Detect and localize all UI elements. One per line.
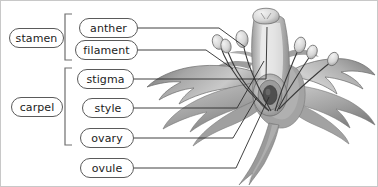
group-label-stamen: stamen [16, 33, 58, 44]
part-label-anther: anther [90, 23, 127, 34]
part-label-ovary: ovary [91, 133, 123, 144]
group-pill-carpel[interactable]: carpel [11, 97, 63, 117]
ovule-body [263, 86, 277, 105]
group-label-carpel: carpel [20, 102, 55, 113]
bracket-carpel [65, 68, 72, 145]
bracket-stamen [65, 14, 72, 60]
part-label-style: style [95, 103, 122, 114]
part-label-filament: filament [83, 45, 129, 56]
part-label-ovule: ovule [92, 163, 123, 174]
part-pill-ovule[interactable]: ovule [80, 158, 134, 178]
part-pill-stigma[interactable]: stigma [77, 69, 134, 89]
part-pill-anther[interactable]: anther [79, 18, 138, 38]
group-brackets [65, 14, 72, 145]
flower-illustration [147, 8, 375, 185]
part-pill-filament[interactable]: filament [75, 40, 138, 60]
part-pill-style[interactable]: style [82, 98, 134, 118]
part-pill-ovary[interactable]: ovary [80, 128, 134, 148]
group-pill-stamen[interactable]: stamen [9, 28, 64, 48]
part-label-stigma: stigma [86, 74, 124, 85]
stigma-tip [253, 8, 279, 24]
flower-anatomy-diagram: stamen carpel anther filament stigma sty… [0, 0, 378, 187]
